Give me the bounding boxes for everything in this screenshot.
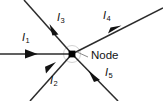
diagram-canvas: [0, 0, 163, 101]
current-subscript-i5: 5: [109, 71, 113, 80]
node-current-diagram: I1 I2 I3 I4 I5 Node: [0, 0, 163, 101]
node-junction-dot: [69, 51, 76, 58]
current-subscript-i1: 1: [26, 36, 30, 45]
arrow-head-i2: [45, 62, 56, 73]
current-subscript-i2: 2: [54, 79, 58, 88]
current-subscript-i3: 3: [61, 16, 65, 25]
current-symbol-i4: I: [103, 9, 106, 21]
arrow-head-i5: [89, 71, 101, 82]
arrow-head-i1: [25, 49, 38, 58]
node-label: Node: [91, 50, 119, 62]
current-symbol-i3: I: [57, 11, 60, 23]
current-label-i5: I5: [105, 67, 112, 78]
current-symbol-i5: I: [105, 66, 108, 78]
current-label-i1: I1: [22, 32, 29, 43]
current-label-i4: I4: [103, 10, 110, 21]
current-label-i3: I3: [57, 12, 64, 23]
current-subscript-i4: 4: [107, 14, 111, 23]
current-symbol-i2: I: [50, 74, 53, 86]
branch-line-i4: [72, 8, 163, 54]
current-symbol-i1: I: [22, 31, 25, 43]
current-label-i2: I2: [50, 75, 57, 86]
node-leader-line: [77, 52, 88, 57]
branch-line-i3: [24, 0, 72, 54]
